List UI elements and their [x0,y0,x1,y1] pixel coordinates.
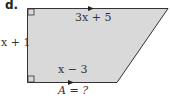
area-label: A = ? [58,84,88,97]
bottom-side-label: x − 3 [58,63,87,76]
top-side-label: 3x + 5 [75,11,111,24]
left-side-label: x + 1 [1,36,30,49]
